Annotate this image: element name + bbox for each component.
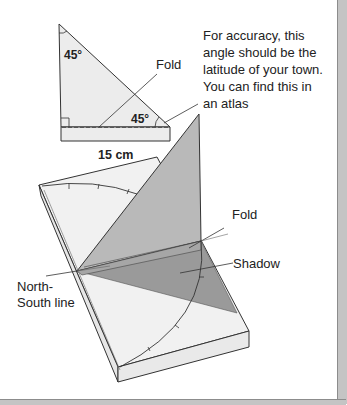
template-fold-label: Fold xyxy=(156,57,181,72)
note-line-3: latitude of your town. xyxy=(203,62,323,77)
shadow-label: Shadow xyxy=(233,256,281,271)
latitude-note: For accuracy, this angle should be the l… xyxy=(203,28,323,111)
assembled-fold-label: Fold xyxy=(232,207,257,222)
width-label: 15 cm xyxy=(98,148,133,162)
assembled-sundial: Fold Shadow North- South line xyxy=(17,114,281,382)
page-edge-bottom xyxy=(0,399,346,405)
note-line-5: an atlas xyxy=(203,96,249,111)
north-south-label-2: South line xyxy=(17,295,75,310)
note-line-1: For accuracy, this xyxy=(203,28,305,43)
page-edge-right xyxy=(337,0,347,404)
bottom-angle-label: 45° xyxy=(131,112,149,126)
template-triangle: 45° 45° Fold 15 cm xyxy=(59,24,198,162)
north-south-label-1: North- xyxy=(17,279,53,294)
note-line-4: You can find this in xyxy=(203,79,312,94)
top-angle-label: 45° xyxy=(64,48,82,62)
note-line-2: angle should be the xyxy=(203,45,316,60)
